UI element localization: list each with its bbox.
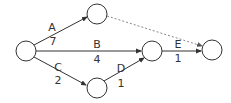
edge-d-duration: 1	[118, 77, 125, 90]
edge-d-label: D	[117, 62, 125, 75]
activity-network-diagram: A 7 B 4 C 2 D 1 E 1	[0, 0, 231, 103]
node-5	[202, 40, 222, 60]
node-4	[142, 41, 162, 61]
node-2	[87, 4, 107, 24]
edge-a	[34, 17, 87, 45]
edge-b-duration: 4	[94, 53, 101, 66]
node-3	[87, 78, 107, 98]
edge-e-label: E	[175, 38, 182, 51]
edge-a-duration: 7	[50, 35, 57, 48]
edge-e-duration: 1	[175, 52, 182, 65]
edge-b-label: B	[93, 38, 101, 51]
edge-a-label: A	[48, 21, 56, 34]
node-1	[16, 41, 36, 61]
edge-c-label: C	[54, 61, 62, 74]
edge-c-duration: 2	[55, 74, 62, 87]
